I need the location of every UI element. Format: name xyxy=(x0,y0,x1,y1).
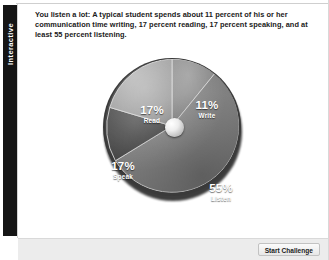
pie-label-read: 17% Read xyxy=(131,104,173,125)
pie-label-speak-name: Speak xyxy=(102,172,144,181)
pie-chart: 11% Write 17% Read 17% Speak 55% Listen xyxy=(18,42,318,238)
pie-label-listen-name: Listen xyxy=(198,194,244,203)
activity-footer-bar: Start Challenge xyxy=(18,238,328,260)
pie-label-speak: 17% Speak xyxy=(102,160,144,181)
pie-label-read-percent: 17% xyxy=(131,104,173,116)
sidebar-tab-label: Interactive xyxy=(6,23,15,65)
pie-label-listen-percent: 55% xyxy=(198,182,244,194)
pie-label-read-name: Read xyxy=(131,116,173,125)
sidebar-tab-interactive[interactable]: Interactive xyxy=(3,5,17,236)
pie-label-listen: 55% Listen xyxy=(198,182,244,203)
interactive-activity-panel: Interactive You listen a lot: A typical … xyxy=(0,0,329,260)
activity-prompt-text: You listen a lot: A typical student spen… xyxy=(35,10,317,41)
pie-label-write-percent: 11% xyxy=(186,99,228,111)
pie-label-write: 11% Write xyxy=(186,99,228,120)
top-divider xyxy=(16,3,329,4)
sidebar-tab-inner: Interactive xyxy=(3,5,17,83)
pie-label-speak-percent: 17% xyxy=(102,160,144,172)
pie-label-write-name: Write xyxy=(186,111,228,120)
start-challenge-button[interactable]: Start Challenge xyxy=(258,243,320,256)
